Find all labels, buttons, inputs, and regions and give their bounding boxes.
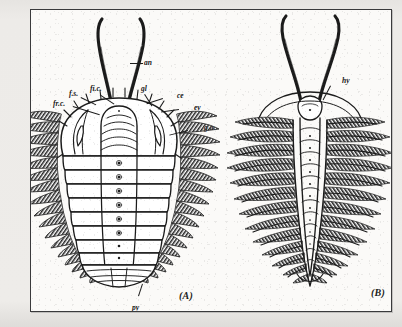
illustration-plate-frame: an f.s. fi.c. fr.c. gl ce ey g.a. py hy … xyxy=(30,9,392,312)
illustration-plate-inner: an f.s. fi.c. fr.c. gl ce ey g.a. py hy … xyxy=(31,10,391,311)
label-fs: f.s. xyxy=(69,89,78,98)
figure-b-caption: (B) xyxy=(371,287,385,298)
screenshot-root: an f.s. fi.c. fr.c. gl ce ey g.a. py hy … xyxy=(0,0,402,327)
figure-a-caption: (A) xyxy=(179,290,193,301)
label-ey: ey xyxy=(194,103,201,112)
label-gl: gl xyxy=(141,84,147,93)
leader-line-an xyxy=(130,63,143,64)
label-ce: ce xyxy=(177,91,184,100)
label-an: an xyxy=(144,58,152,67)
label-frc: fr.c. xyxy=(53,99,65,108)
label-hy: hy xyxy=(342,76,350,85)
label-fic: fi.c. xyxy=(90,84,102,93)
label-py: py xyxy=(132,303,139,311)
figure-b-ventral-trilobite xyxy=(201,10,391,306)
label-ga: g.a. xyxy=(204,123,215,132)
figure-a-dorsal-trilobite xyxy=(31,10,229,306)
